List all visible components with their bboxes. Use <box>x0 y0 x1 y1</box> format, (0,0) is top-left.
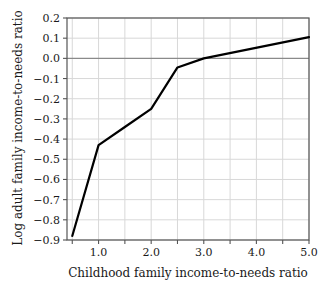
x-tick-label: 5.0 <box>300 246 318 259</box>
chart-figure: 1.02.03.04.05.0 0.20.10.0−0.1−0.2−0.3−0.… <box>0 0 333 286</box>
line-chart: 1.02.03.04.05.0 0.20.10.0−0.1−0.2−0.3−0.… <box>0 0 333 286</box>
y-tick-label: −0.2 <box>33 93 60 106</box>
y-axis-title: Log adult family income-to-needs ratio <box>11 10 25 245</box>
y-tick-label: −0.9 <box>33 234 60 247</box>
y-tick-label: −0.1 <box>33 73 60 86</box>
x-tick-label: 1.0 <box>90 246 108 259</box>
y-tick-label: 0.1 <box>43 32 61 45</box>
y-tick-label: −0.8 <box>33 214 60 227</box>
y-tick-label: −0.7 <box>33 194 60 207</box>
y-tick-label: −0.6 <box>33 173 60 186</box>
x-tick-label: 4.0 <box>248 246 266 259</box>
x-tick-label: 2.0 <box>142 246 160 259</box>
y-tick-label: −0.5 <box>33 153 60 166</box>
y-tick-label: 0.0 <box>43 52 61 65</box>
x-tick-label: 3.0 <box>195 246 213 259</box>
y-tick-label: −0.3 <box>33 113 60 126</box>
x-axis-title: Childhood family income-to-needs ratio <box>68 266 308 280</box>
y-tick-label: −0.4 <box>33 133 60 146</box>
y-tick-label: 0.2 <box>43 12 61 25</box>
